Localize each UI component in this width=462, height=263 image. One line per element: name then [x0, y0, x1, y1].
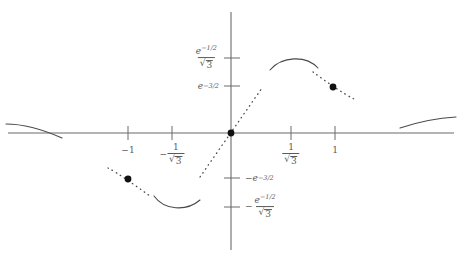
- y-axis-label-neg-upper: −e−3/2: [245, 174, 274, 183]
- sqrt-three-x-neg: √3: [169, 155, 182, 166]
- x-axis-label-neg-one: −1: [121, 146, 134, 155]
- curve-far-right-tail: [400, 117, 456, 128]
- y-axis-label-pos-lower: e−3/2: [198, 82, 219, 91]
- x-pos-inv-sqrt3-radicand: 3: [290, 156, 298, 166]
- sqrt-three-lower: √3: [258, 209, 271, 220]
- plot-canvas: [0, 0, 462, 263]
- y-neg-upper-minus: −: [245, 174, 253, 183]
- y-neg-lower-den-radicand: 3: [264, 210, 272, 220]
- fraction-neg-e-half-over-sqrt3: e−1/2 √3: [253, 194, 278, 220]
- fraction-neg-one-over-sqrt3: 1 √3: [167, 143, 184, 167]
- x-axis-label-pos-inv-sqrt3: 1 √3: [282, 143, 299, 167]
- curve-right-hump-arc: [270, 59, 318, 70]
- marked-point-origin: [228, 130, 235, 137]
- y-neg-lower-minus: −: [245, 203, 253, 212]
- y-axis-label-neg-lower: − e−1/2 √3: [245, 194, 278, 220]
- y-axis-label-pos-upper: e−1/2 √3: [194, 45, 219, 71]
- x-neg-inv-sqrt3-minus: −: [159, 150, 167, 159]
- sqrt-three-x-pos: √3: [284, 155, 297, 166]
- sqrt-three-upper: √3: [200, 60, 213, 71]
- x-neg-inv-sqrt3-numerator: 1: [171, 143, 181, 153]
- fraction-e-half-over-sqrt3: e−1/2 √3: [194, 45, 219, 71]
- x-neg-one-text: −1: [121, 145, 134, 155]
- x-axis-label-pos-one: 1: [332, 146, 338, 155]
- x-pos-one-text: 1: [332, 145, 338, 155]
- x-neg-inv-sqrt3-radicand: 3: [175, 156, 183, 166]
- marked-point-pos-one: [330, 84, 337, 91]
- curve-left-valley-arc: [154, 196, 200, 208]
- x-pos-inv-sqrt3-numerator: 1: [286, 143, 296, 153]
- y-neg-upper-exponent: −3/2: [258, 175, 274, 181]
- y-neg-lower-num-exponent: −1/2: [260, 193, 276, 201]
- y-pos-upper-den-radicand: 3: [205, 61, 213, 71]
- marked-point-neg-one: [125, 176, 132, 183]
- y-pos-upper-num-exponent: −1/2: [201, 44, 217, 52]
- x-axis-label-neg-inv-sqrt3: − 1 √3: [159, 143, 184, 167]
- y-pos-lower-exponent: −3/2: [203, 83, 219, 89]
- function-graph-figure: e−1/2 √3 e−3/2 −e−3/2 −: [0, 0, 462, 263]
- fraction-one-over-sqrt3: 1 √3: [282, 143, 299, 167]
- curve-far-left-tail: [6, 124, 62, 138]
